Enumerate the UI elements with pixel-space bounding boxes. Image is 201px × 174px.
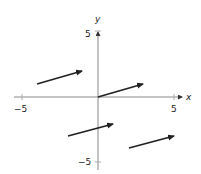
y-axis <box>95 31 101 170</box>
vector-plot: x y −5 5 5 −5 <box>0 0 201 174</box>
x-axis-label: x <box>185 92 192 102</box>
vector-1 <box>37 71 82 84</box>
vector-3 <box>68 124 113 136</box>
y-tick-5: 5 <box>85 29 91 39</box>
vector-4 <box>129 136 174 148</box>
x-tick-neg5: −5 <box>14 104 27 114</box>
x-tick-5: 5 <box>171 104 177 114</box>
y-tick-neg5: −5 <box>78 157 91 167</box>
vector-2 <box>98 84 143 97</box>
y-axis-label: y <box>94 14 101 24</box>
